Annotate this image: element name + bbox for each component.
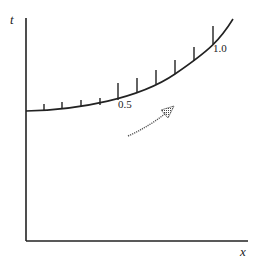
- diagram-canvas: t x 0.5 1.0: [0, 0, 260, 262]
- x-axis-label: x: [239, 244, 246, 259]
- tick-label-1-0: 1.0: [213, 42, 227, 54]
- tick-label-0-5: 0.5: [118, 98, 132, 110]
- direction-arrow-shaft: [128, 113, 166, 136]
- t-axis-label: t: [10, 12, 14, 27]
